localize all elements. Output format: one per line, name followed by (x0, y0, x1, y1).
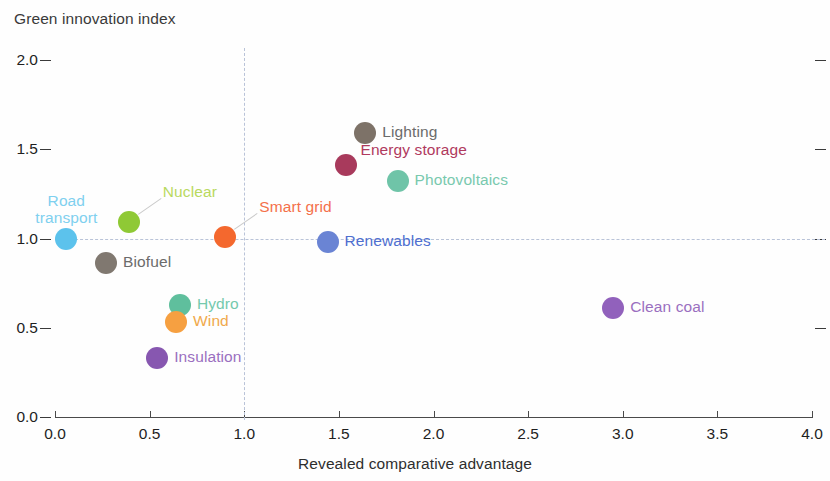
x-tick-mark (528, 411, 529, 418)
reference-line-horizontal (55, 239, 825, 240)
data-point-label: Biofuel (123, 253, 171, 270)
x-tick-label: 0.0 (44, 425, 66, 443)
x-tick-mark (717, 411, 718, 418)
data-point-label: Smart grid (259, 198, 332, 215)
data-point-label: Clean coal (630, 298, 704, 315)
y-tick-mark-right (815, 149, 826, 150)
data-point[interactable] (214, 226, 236, 248)
data-point-label: Energy storage (360, 141, 467, 158)
x-tick-mark (434, 411, 435, 418)
x-tick-mark (55, 411, 56, 418)
y-tick-mark-right (815, 60, 826, 61)
y-tick-mark (40, 60, 51, 61)
y-tick-label: 1.0 (0, 230, 38, 248)
y-tick-label: 0.5 (0, 319, 38, 337)
y-axis-title: Green innovation index (14, 10, 176, 28)
data-point[interactable] (335, 154, 357, 176)
data-point[interactable] (354, 122, 376, 144)
data-point[interactable] (165, 311, 187, 333)
x-tick-label: 3.0 (612, 425, 634, 443)
x-tick-mark (623, 411, 624, 418)
x-tick-label: 0.5 (139, 425, 161, 443)
data-point-label: Wind (193, 312, 229, 329)
y-tick-mark (40, 328, 51, 329)
x-axis-title: Revealed comparative advantage (0, 455, 830, 473)
data-point-label: Lighting (382, 123, 437, 140)
data-point[interactable] (146, 347, 168, 369)
data-point[interactable] (317, 231, 339, 253)
x-tick-mark (150, 411, 151, 418)
y-tick-mark-right (815, 328, 826, 329)
label-leader-line (138, 198, 162, 215)
x-tick-label: 3.5 (707, 425, 729, 443)
x-tick-label: 2.0 (423, 425, 445, 443)
data-point-label: Road transport (20, 192, 112, 227)
data-point-label: Nuclear (163, 183, 217, 200)
data-point[interactable] (95, 252, 117, 274)
label-leader-line (234, 213, 258, 230)
data-point[interactable] (55, 228, 77, 250)
x-tick-label: 4.0 (801, 425, 823, 443)
x-tick-label: 2.5 (517, 425, 539, 443)
reference-line-vertical (244, 48, 245, 420)
y-tick-mark (40, 417, 51, 418)
y-tick-mark (40, 149, 51, 150)
x-tick-mark (812, 411, 813, 418)
x-tick-mark (339, 411, 340, 418)
data-point-label: Hydro (197, 295, 239, 312)
x-tick-label: 1.0 (233, 425, 255, 443)
data-point-label: Renewables (345, 232, 431, 249)
y-tick-mark (40, 239, 51, 240)
data-point[interactable] (118, 211, 140, 233)
scatter-chart: Green innovation index Revealed comparat… (0, 0, 830, 481)
data-point-label: Photovoltaics (415, 171, 509, 188)
data-point[interactable] (387, 170, 409, 192)
y-tick-label: 1.5 (0, 140, 38, 158)
y-tick-label: 2.0 (0, 51, 38, 69)
x-tick-label: 1.5 (328, 425, 350, 443)
data-point[interactable] (602, 297, 624, 319)
data-point-label: Insulation (174, 348, 241, 365)
y-tick-label: 0.0 (0, 408, 38, 426)
